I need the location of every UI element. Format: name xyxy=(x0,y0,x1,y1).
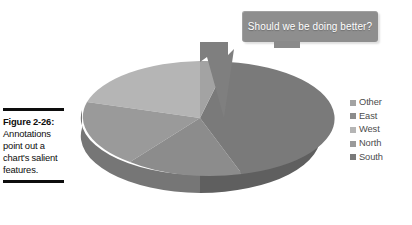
legend-label: East xyxy=(359,112,377,121)
annotation-callout[interactable]: Should we be doing better? xyxy=(242,11,378,42)
caption-rule-top xyxy=(3,108,64,111)
figure-number-label: Figure 2-26: xyxy=(3,116,54,127)
legend-label: North xyxy=(359,139,381,148)
legend-label: Other xyxy=(359,98,382,107)
pie-top-face xyxy=(83,61,335,176)
legend-item-other[interactable]: Other xyxy=(350,96,410,110)
legend-swatch-icon xyxy=(350,100,356,106)
legend-swatch-icon xyxy=(350,154,356,160)
figure-caption-text: Figure 2-26: Annotations point out a cha… xyxy=(3,116,67,176)
legend-label: West xyxy=(359,125,380,134)
figure-description-text: Annotations point out a chart's salient … xyxy=(3,128,58,175)
legend-swatch-icon xyxy=(350,113,356,119)
callout-tail xyxy=(274,41,300,48)
legend-item-south[interactable]: South xyxy=(350,150,410,164)
legend-swatch-icon xyxy=(350,127,356,133)
legend-item-east[interactable]: East xyxy=(350,110,410,124)
pie-chart-figure: Should we be doing better? xyxy=(70,0,340,225)
chart-legend: Other East West North South xyxy=(350,96,410,164)
legend-item-north[interactable]: North xyxy=(350,137,410,151)
callout-label: Should we be doing better? xyxy=(242,11,378,42)
legend-item-west[interactable]: West xyxy=(350,123,410,137)
legend-swatch-icon xyxy=(350,141,356,147)
figure-caption-block: Figure 2-26: Annotations point out a cha… xyxy=(3,108,67,183)
caption-rule-bottom xyxy=(3,180,64,183)
legend-label: South xyxy=(359,153,383,162)
